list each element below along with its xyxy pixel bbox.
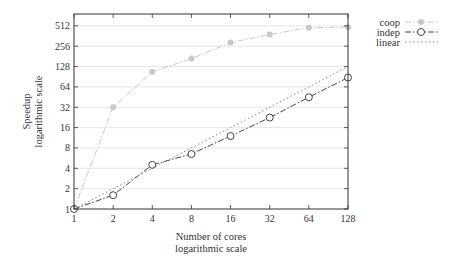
marker-indep bbox=[305, 94, 312, 101]
marker-indep bbox=[149, 161, 156, 168]
plot-frame bbox=[74, 14, 348, 209]
y-tick-label: 4 bbox=[65, 163, 70, 174]
x-tick-label: 1 bbox=[72, 213, 77, 224]
x-axis-title: Number of cores bbox=[176, 231, 247, 242]
marker-coop bbox=[306, 25, 312, 31]
x-tick-label: 4 bbox=[150, 213, 155, 224]
marker-indep bbox=[266, 114, 273, 121]
y-tick-label: 512 bbox=[55, 20, 70, 31]
marker-indep bbox=[110, 192, 117, 199]
marker-coop bbox=[149, 69, 155, 75]
marker-indep bbox=[227, 133, 234, 140]
marker-coop bbox=[188, 56, 194, 62]
y-axis-ticks: 1248163264128256512 bbox=[55, 20, 348, 214]
y-tick-label: 1 bbox=[65, 204, 70, 215]
y-tick-label: 16 bbox=[60, 122, 70, 133]
marker-coop bbox=[110, 104, 116, 110]
x-tick-label: 32 bbox=[265, 213, 275, 224]
x-axis-subtitle: logarithmic scale bbox=[175, 243, 247, 254]
y-tick-label: 8 bbox=[65, 142, 70, 153]
marker-coop bbox=[267, 32, 273, 38]
series-line-coop bbox=[74, 27, 348, 209]
y-tick-label: 128 bbox=[55, 61, 70, 72]
y-axis-title: Speedup bbox=[21, 93, 32, 129]
legend: coopindeplinear bbox=[376, 17, 438, 48]
x-tick-label: 8 bbox=[189, 213, 194, 224]
data-series bbox=[71, 24, 352, 212]
y-tick-label: 32 bbox=[60, 102, 70, 113]
y-axis-title-group: Speedup logarithmic scale bbox=[21, 75, 44, 147]
y-tick-label: 64 bbox=[60, 81, 70, 92]
y-tick-label: 2 bbox=[65, 183, 70, 194]
legend-label-linear: linear bbox=[376, 37, 400, 48]
x-tick-label: 2 bbox=[111, 213, 116, 224]
marker-coop bbox=[228, 40, 234, 46]
series-line-linear bbox=[74, 67, 348, 210]
x-tick-label: 16 bbox=[226, 213, 236, 224]
x-tick-label: 64 bbox=[304, 213, 314, 224]
x-tick-label: 128 bbox=[341, 213, 356, 224]
marker-indep bbox=[188, 151, 195, 158]
speedup-chart: 1248163264128 1248163264128256512 Number… bbox=[0, 0, 451, 263]
y-tick-label: 256 bbox=[55, 41, 70, 52]
y-axis-subtitle: logarithmic scale bbox=[33, 75, 44, 147]
